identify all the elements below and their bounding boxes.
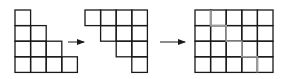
- grid-cell: [211, 41, 227, 57]
- grid-cell: [195, 26, 211, 42]
- grid-cell: [257, 41, 273, 57]
- grid-cell: [257, 26, 273, 42]
- staircase-rotated-figure: [85, 10, 147, 72]
- grid-cell: [101, 10, 117, 26]
- grid-cell: [46, 57, 62, 73]
- grid-cell: [242, 26, 258, 42]
- grid-cell: [31, 26, 47, 42]
- grid-cell: [226, 41, 242, 57]
- grid-cell: [132, 26, 148, 42]
- grid-cell: [195, 57, 211, 73]
- grid-cell: [116, 41, 132, 57]
- grid-cell: [242, 10, 258, 26]
- grid-cell: [226, 57, 242, 73]
- grid-cell: [195, 10, 211, 26]
- grid-cell: [116, 10, 132, 26]
- grid-cell: [15, 10, 31, 26]
- combined-rectangle-figure: [195, 10, 273, 72]
- grid-cell: [211, 57, 227, 73]
- staircase-left-figure: [15, 10, 77, 72]
- grid-cell: [46, 41, 62, 57]
- grid-cell: [226, 26, 242, 42]
- grid-cell: [257, 57, 273, 73]
- grid-cell: [211, 10, 227, 26]
- grid-cell: [116, 26, 132, 42]
- grid-cell: [132, 10, 148, 26]
- grid-cell: [31, 41, 47, 57]
- grid-cell: [257, 10, 273, 26]
- grid-cell: [62, 57, 78, 73]
- grid-cell: [85, 10, 101, 26]
- grid-cell: [211, 26, 227, 42]
- grid-cell: [101, 26, 117, 42]
- grid-cell: [132, 41, 148, 57]
- grid-cell: [242, 41, 258, 57]
- grid-cell: [242, 57, 258, 73]
- grid-cell: [15, 41, 31, 57]
- grid-cell: [15, 57, 31, 73]
- diagram-canvas: [0, 0, 285, 79]
- grid-cell: [195, 41, 211, 57]
- grid-cell: [15, 26, 31, 42]
- grid-cell: [132, 57, 148, 73]
- grid-cell: [31, 57, 47, 73]
- grid-cell: [226, 10, 242, 26]
